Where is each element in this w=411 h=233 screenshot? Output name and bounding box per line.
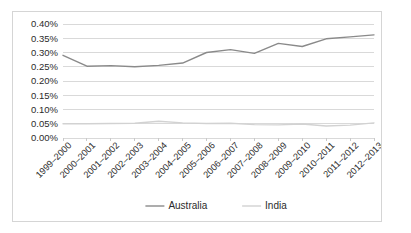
y-axis-tick-label: 0.20% — [31, 75, 58, 86]
y-axis-tick-label: 0.35% — [31, 33, 58, 44]
legend-label-india: India — [265, 200, 287, 211]
legend-label-australia: Australia — [168, 200, 207, 211]
y-axis-tick-label: 0.25% — [31, 61, 58, 72]
y-axis-tick-label: 0.15% — [31, 90, 58, 101]
series-line-australia — [63, 35, 374, 67]
x-axis-tick-labels: 1999–20002000–20012001–20022002–20032003… — [34, 140, 381, 180]
chart-container: 0.40%0.35%0.30%0.25%0.20%0.15%0.10%0.05%… — [12, 11, 382, 222]
y-axis-tick-label: 0.30% — [31, 47, 58, 58]
line-chart: 0.40%0.35%0.30%0.25%0.20%0.15%0.10%0.05%… — [13, 12, 381, 221]
chart-legend: AustraliaIndia — [145, 200, 287, 211]
data-series — [63, 35, 374, 126]
y-axis-tick-label: 0.40% — [31, 18, 58, 29]
y-axis-tick-labels: 0.40%0.35%0.30%0.25%0.20%0.15%0.10%0.05%… — [31, 18, 58, 143]
gridlines — [63, 24, 374, 138]
y-axis-tick-label: 0.05% — [31, 118, 58, 129]
y-axis-tick-label: 0.10% — [31, 104, 58, 115]
y-axis-tick-label: 0.00% — [31, 132, 58, 143]
